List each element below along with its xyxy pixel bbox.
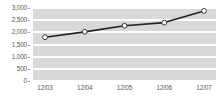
y-axis-tick-mark <box>28 81 30 82</box>
x-axis: 12/0312/0412/0512/0612/07 <box>33 84 216 98</box>
gridline <box>33 44 216 46</box>
gridline <box>33 31 216 33</box>
y-axis-tick-mark <box>28 20 30 21</box>
gridline <box>33 8 216 9</box>
y-axis-tick-mark <box>28 8 30 9</box>
y-axis-tick-mark <box>28 45 30 46</box>
x-axis-tick-label: 12/03 <box>37 85 52 92</box>
x-axis-tick-label: 12/04 <box>77 85 92 92</box>
y-axis-tick-label: 3,000 <box>12 5 27 12</box>
gridline <box>33 68 216 70</box>
y-axis: 3,0002,5002,0001,5001,0005000 <box>0 0 31 90</box>
y-axis-tick-label: 0 <box>24 78 27 85</box>
gridline <box>33 56 216 58</box>
y-axis-tick-mark <box>28 69 30 70</box>
line-chart: 3,0002,5002,0001,5001,0005000 12/0312/04… <box>0 0 224 100</box>
y-axis-tick-label: 500 <box>17 66 27 73</box>
y-axis-tick-mark <box>28 32 30 33</box>
gridline <box>33 80 216 81</box>
y-axis-tick-label: 2,500 <box>12 17 27 24</box>
x-axis-tick-label: 12/05 <box>117 85 132 92</box>
y-axis-tick-label: 1,500 <box>12 41 27 48</box>
y-axis-tick-mark <box>28 57 30 58</box>
y-axis-tick-label: 1,000 <box>12 53 27 60</box>
x-axis-tick-label: 12/07 <box>196 85 211 92</box>
y-axis-tick-label: 2,000 <box>12 29 27 36</box>
plot-area <box>33 8 216 81</box>
x-axis-tick-label: 12/06 <box>157 85 172 92</box>
gridline <box>33 19 216 21</box>
